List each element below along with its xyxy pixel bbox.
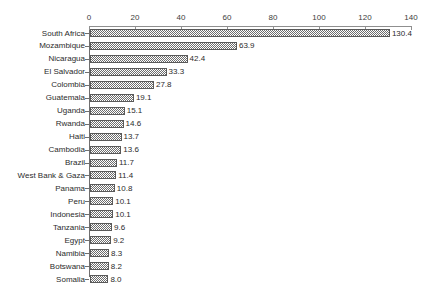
y-axis-tick <box>85 188 89 189</box>
bar-value-label: 130.4 <box>392 29 412 38</box>
bar-value-label: 42.4 <box>190 54 206 63</box>
category-label: Cambodia <box>49 145 85 154</box>
y-axis-tick <box>85 124 89 125</box>
bar-value-label: 9.2 <box>113 236 124 245</box>
bar <box>90 236 111 244</box>
category-label: Panama <box>55 184 85 193</box>
bar-value-label: 15.1 <box>127 106 143 115</box>
y-axis-tick <box>85 111 89 112</box>
y-axis-tick <box>85 163 89 164</box>
y-axis-tick <box>85 150 89 151</box>
y-axis-tick <box>85 175 89 176</box>
bar-chart: 020406080100120140 South Africa130.4Moza… <box>0 0 426 288</box>
y-axis-tick <box>85 85 89 86</box>
bar-value-label: 10.8 <box>117 184 133 193</box>
y-axis-tick <box>85 201 89 202</box>
category-label: Namibia <box>56 249 85 258</box>
bar-value-label: 10.1 <box>115 197 131 206</box>
bar-value-label: 8.2 <box>111 262 122 271</box>
category-label: Nicaragua <box>49 54 85 63</box>
bar-value-label: 13.7 <box>124 132 140 141</box>
category-label: West Bank & Gaza <box>18 171 85 180</box>
category-label: El Salvador <box>44 67 85 76</box>
bar <box>90 120 124 128</box>
bar <box>90 94 134 102</box>
bar-value-label: 8.3 <box>111 249 122 258</box>
bar <box>90 146 121 154</box>
y-axis-tick <box>85 279 89 280</box>
bar-value-label: 13.6 <box>123 145 139 154</box>
bar <box>90 184 115 192</box>
bar <box>90 29 390 37</box>
bar <box>90 159 117 167</box>
y-axis-tick <box>85 253 89 254</box>
bar <box>90 133 122 141</box>
x-axis-tick-label: 100 <box>312 13 325 22</box>
bar-value-label: 27.8 <box>156 80 172 89</box>
category-label: Egypt <box>65 236 85 245</box>
bar-value-label: 19.1 <box>136 93 152 102</box>
bar <box>90 171 116 179</box>
bar <box>90 223 112 231</box>
bar <box>90 42 237 50</box>
category-label: Guatemala <box>46 93 85 102</box>
category-label: Haiti <box>69 132 85 141</box>
y-axis-tick <box>85 59 89 60</box>
x-axis-tick-label: 40 <box>177 13 186 22</box>
bar <box>90 197 113 205</box>
bar-value-label: 63.9 <box>239 41 255 50</box>
bar-value-label: 33.3 <box>169 67 185 76</box>
bar <box>90 210 113 218</box>
x-axis-tick-label: 60 <box>223 13 232 22</box>
bar-value-label: 10.1 <box>115 210 131 219</box>
category-label: Uganda <box>57 106 85 115</box>
category-label: Rwanda <box>56 119 85 128</box>
y-axis-tick <box>85 98 89 99</box>
x-axis-tick-label: 0 <box>87 13 91 22</box>
category-label: Brazil <box>65 158 85 167</box>
bar <box>90 107 125 115</box>
x-axis-tick-label: 20 <box>131 13 140 22</box>
bar-value-label: 14.6 <box>126 119 142 128</box>
category-label: Somalia <box>56 275 85 284</box>
y-axis-tick <box>85 33 89 34</box>
y-axis-tick <box>85 214 89 215</box>
x-axis-tick-label: 120 <box>358 13 371 22</box>
category-label: Botswana <box>50 262 85 271</box>
y-axis-tick <box>85 137 89 138</box>
bar <box>90 262 109 270</box>
bar <box>90 249 109 257</box>
x-axis-tick-label: 80 <box>269 13 278 22</box>
bar <box>90 275 108 283</box>
category-label: Peru <box>68 197 85 206</box>
bar-value-label: 9.6 <box>114 223 125 232</box>
category-label: Indonesia <box>50 210 85 219</box>
x-axis-line <box>89 26 411 27</box>
y-axis-tick <box>85 72 89 73</box>
category-label: Mozambique <box>39 41 85 50</box>
category-label: Tanzania <box>53 223 85 232</box>
bar <box>90 81 154 89</box>
category-label: South Africa <box>42 29 85 38</box>
y-axis-tick <box>85 46 89 47</box>
y-axis-tick <box>85 240 89 241</box>
y-axis-tick <box>85 227 89 228</box>
bar-value-label: 11.4 <box>118 171 133 180</box>
bar <box>90 55 188 63</box>
bar <box>90 68 167 76</box>
category-label: Colombia <box>51 80 85 89</box>
y-axis-tick <box>85 266 89 267</box>
bar-value-label: 8.0 <box>110 275 121 284</box>
x-axis-tick-label: 140 <box>404 13 417 22</box>
bar-value-label: 11.7 <box>119 158 134 167</box>
